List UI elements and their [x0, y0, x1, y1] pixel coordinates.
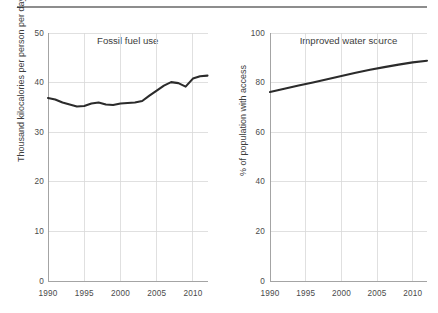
- plot-area-left: [0, 0, 218, 313]
- axes-right: [270, 33, 427, 281]
- x-tick-left-2000: 2000: [103, 289, 139, 298]
- x-tick-left-2005: 2005: [139, 289, 175, 298]
- x-tick-right-2005: 2005: [359, 289, 395, 298]
- y-tick-left-50: 50: [22, 29, 44, 38]
- y-tick-right-80: 80: [240, 78, 265, 87]
- x-tick-left-2010: 2010: [175, 289, 211, 298]
- y-tick-left-0: 0: [22, 277, 44, 286]
- y-tick-left-30: 30: [22, 128, 44, 137]
- y-tick-left-10: 10: [22, 227, 44, 236]
- gridlines-left: [48, 33, 208, 281]
- data-series-improved-water: [270, 61, 427, 92]
- x-tick-right-2000: 2000: [323, 289, 359, 298]
- x-tick-right-1990: 1990: [252, 289, 288, 298]
- gridlines-right: [270, 33, 427, 281]
- figure-root: Fossil fuel use Thousand kilocalories pe…: [0, 0, 438, 313]
- data-series-fossil-fuel: [48, 76, 208, 107]
- axes-left: [48, 33, 208, 281]
- y-tick-right-0: 0: [240, 277, 265, 286]
- chart-panel-fossil-fuel-use: Fossil fuel use Thousand kilocalories pe…: [0, 0, 218, 313]
- y-tick-right-40: 40: [240, 177, 265, 186]
- chart-panel-improved-water-source: Improved water source % of population wi…: [218, 0, 438, 313]
- y-tick-right-60: 60: [240, 128, 265, 137]
- y-tick-left-20: 20: [22, 177, 44, 186]
- x-tick-right-2010: 2010: [395, 289, 431, 298]
- x-tick-right-1995: 1995: [288, 289, 324, 298]
- x-tick-left-1995: 1995: [66, 289, 102, 298]
- y-tick-left-40: 40: [22, 78, 44, 87]
- y-tick-right-20: 20: [240, 227, 265, 236]
- plot-area-right: [218, 0, 438, 313]
- y-tick-right-100: 100: [240, 29, 265, 38]
- x-tick-left-1990: 1990: [30, 289, 66, 298]
